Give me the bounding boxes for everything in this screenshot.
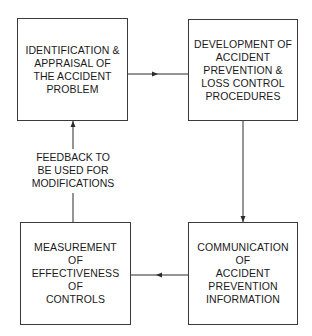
node-text-line: PREVENTION (197, 280, 289, 293)
node-development-text: DEVELOPMENT OF ACCIDENT PREVENTION & LOS… (194, 38, 292, 103)
node-text-line: INFORMATION (197, 293, 289, 306)
arrowhead-left-icon (156, 273, 162, 278)
node-identification: IDENTIFICATION & APPRAISAL OF THE ACCIDE… (17, 18, 128, 121)
node-text-line: IDENTIFICATION & (25, 44, 119, 57)
node-text-line: THE ACCIDENT (25, 70, 119, 83)
node-text-line: COMMUNICATION (197, 241, 289, 254)
node-text-line: PROBLEM (25, 83, 119, 96)
node-text-line: DEVELOPMENT OF (194, 38, 292, 51)
node-communication-text: COMMUNICATION OF ACCIDENT PREVENTION INF… (197, 241, 289, 306)
node-communication: COMMUNICATION OF ACCIDENT PREVENTION INF… (188, 222, 298, 325)
node-text-line: OF (197, 254, 289, 267)
node-text-line: OF (32, 280, 120, 293)
arrowhead-right-icon (152, 72, 158, 77)
node-development: DEVELOPMENT OF ACCIDENT PREVENTION & LOS… (188, 19, 298, 121)
feedback-label: FEEDBACK TO BE USED FOR MODIFICATIONS (13, 151, 133, 190)
node-measurement: MEASUREMENT OF EFFECTIVENESS OF CONTROLS (20, 222, 131, 325)
arrowhead-up-icon (71, 121, 76, 127)
node-text-line: PROCEDURES (194, 90, 292, 103)
node-text-line: OF (32, 254, 120, 267)
node-text-line: PREVENTION & (194, 64, 292, 77)
feedback-label-line: FEEDBACK TO (13, 151, 133, 164)
node-measurement-text: MEASUREMENT OF EFFECTIVENESS OF CONTROLS (32, 241, 120, 306)
node-text-line: ACCIDENT (194, 51, 292, 64)
node-text-line: ACCIDENT (197, 267, 289, 280)
node-text-line: LOSS CONTROL (194, 77, 292, 90)
feedback-label-line: BE USED FOR (13, 164, 133, 177)
node-text-line: CONTROLS (32, 293, 120, 306)
node-identification-text: IDENTIFICATION & APPRAISAL OF THE ACCIDE… (25, 44, 119, 96)
node-text-line: APPRAISAL OF (25, 57, 119, 70)
feedback-label-line: MODIFICATIONS (13, 177, 133, 190)
node-text-line: MEASUREMENT (32, 241, 120, 254)
node-text-line: EFFECTIVENESS (32, 267, 120, 280)
